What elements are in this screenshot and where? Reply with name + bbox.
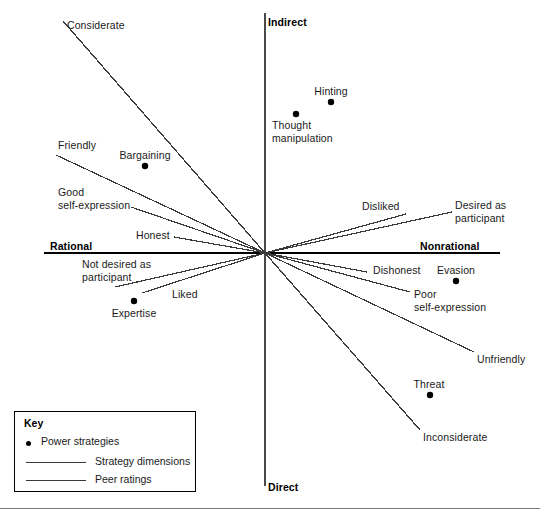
bottom-divider-rule [0,508,540,509]
point-label-threat: Threat [414,378,445,391]
legend-line-icon [26,462,86,463]
point-label-expertise: Expertise [112,307,157,320]
peer-rating-label-honest: Honest [136,229,170,242]
point-label-thought-manipulation: Thought manipulation [272,119,333,144]
peer-rating-label-poor-self-expression: Poor self-expression [414,288,486,313]
peer-rating-label-liked: Liked [172,288,198,301]
peer-rating-line-honest [174,237,265,253]
peer-rating-label-not-desired-as-participant: Not desired as participant [82,258,151,283]
axis-label-nonrational: Nonrational [420,240,479,253]
legend-item-power-strategies: Power strategies [15,434,197,452]
peer-rating-line-liked [142,253,265,293]
peer-rating-label-unfriendly: Unfriendly [477,353,525,366]
peer-rating-line-dishonest [265,253,367,272]
legend-item-strategy-dimensions: Strategy dimensions [15,454,197,472]
peer-rating-label-disliked: Disliked [362,200,400,213]
peer-rating-label-dishonest: Dishonest [373,264,421,277]
data-point-hinting [328,99,334,105]
peer-rating-line-disliked [265,214,406,253]
legend-item-label: Strategy dimensions [95,455,190,467]
legend-line-icon [26,480,86,481]
axis-label-direct: Direct [268,481,298,494]
legend-item-peer-ratings: Peer ratings [15,472,197,490]
peer-rating-label-good-self-expression: Good self-expression [58,186,130,211]
strategy-dimension-line-inconsiderate [265,253,420,430]
data-point-bargaining [142,163,148,169]
data-point-thought-manipulation [293,111,299,117]
legend-dot-icon [26,441,31,446]
point-label-evasion: Evasion [437,264,475,277]
data-point-evasion [453,278,459,284]
dimension-label-considerate: Considerate [67,19,125,32]
peer-rating-label-friendly: Friendly [58,139,96,152]
legend-key-box: Key Power strategies Strategy dimensions… [14,411,196,492]
data-point-expertise [131,298,137,304]
dimension-label-inconsiderate: Inconsiderate [423,431,487,444]
data-point-threat [427,392,433,398]
peer-rating-label-desired-as-participant: Desired as participant [455,199,506,224]
axis-label-rational: Rational [50,240,92,253]
legend-item-label: Power strategies [41,435,119,447]
point-label-bargaining: Bargaining [119,149,170,162]
mds-figure: Indirect Direct Rational Nonrational Con… [0,0,540,515]
legend-title: Key [24,417,43,429]
point-label-hinting: Hinting [314,85,347,98]
axis-label-indirect: Indirect [268,16,307,29]
legend-item-label: Peer ratings [95,473,152,485]
